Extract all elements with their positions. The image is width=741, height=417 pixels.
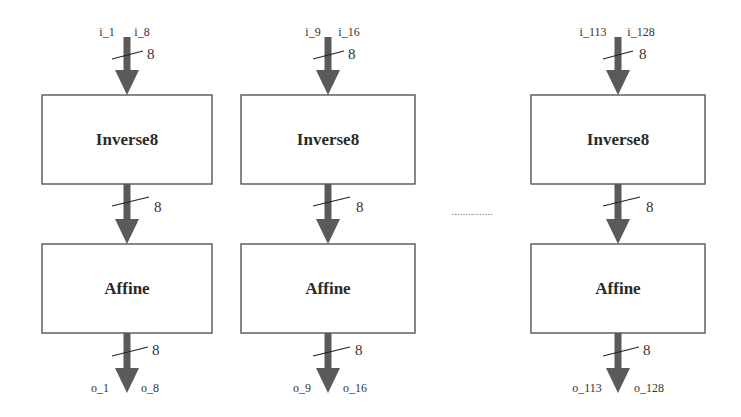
bus-width-label: 8 — [646, 199, 654, 215]
input-bus-arrow-icon — [603, 37, 633, 95]
mid-bus-arrow-icon — [313, 184, 350, 244]
input-label-end: i_8 — [134, 25, 149, 39]
affine-block-label: Affine — [305, 279, 351, 298]
bus-width-label: 8 — [356, 199, 364, 215]
mid-bus-arrow-icon — [603, 184, 640, 244]
output-label-end: o_128 — [634, 381, 664, 395]
input-bus-arrow-icon — [313, 37, 344, 95]
bus-width-label: 8 — [154, 199, 162, 215]
bus-width-label: 8 — [639, 46, 647, 62]
inverse8-block-label: Inverse8 — [96, 130, 158, 149]
bus-width-label: 8 — [355, 342, 363, 358]
output-label-start: o_9 — [293, 381, 311, 395]
ellipsis-separator: ............... — [451, 205, 493, 217]
affine-block-label: Affine — [104, 279, 150, 298]
output-label-end: o_8 — [141, 381, 159, 395]
affine-block-label: Affine — [595, 279, 641, 298]
input-bus-arrow-icon — [112, 37, 143, 95]
bus-width-label: 8 — [147, 46, 155, 62]
output-label-end: o_16 — [343, 381, 367, 395]
output-label-start: o_113 — [572, 381, 602, 395]
column-1: i_1 i_8 8 Inverse8 8 Affine 8 o_1 o_8 — [42, 25, 212, 395]
input-label-start: i_1 — [99, 25, 114, 39]
bus-width-label: 8 — [643, 342, 651, 358]
column-2: i_9 i_16 8 Inverse8 8 Affine 8 o_9 o_16 — [241, 25, 415, 395]
input-label-start: i_9 — [305, 25, 320, 39]
column-3: i_113 i_128 8 Inverse8 8 Affine 8 o_113 … — [531, 25, 705, 395]
bus-width-label: 8 — [348, 46, 356, 62]
diagram-canvas: i_1 i_8 8 Inverse8 8 Affine 8 o_1 o_8 i_… — [0, 0, 741, 417]
bus-width-label: 8 — [152, 342, 160, 358]
input-label-end: i_128 — [627, 25, 654, 39]
inverse8-block-label: Inverse8 — [587, 130, 649, 149]
input-label-start: i_113 — [580, 25, 607, 39]
output-label-start: o_1 — [91, 381, 109, 395]
mid-bus-arrow-icon — [112, 184, 149, 244]
inverse8-block-label: Inverse8 — [297, 130, 359, 149]
input-label-end: i_16 — [338, 25, 359, 39]
